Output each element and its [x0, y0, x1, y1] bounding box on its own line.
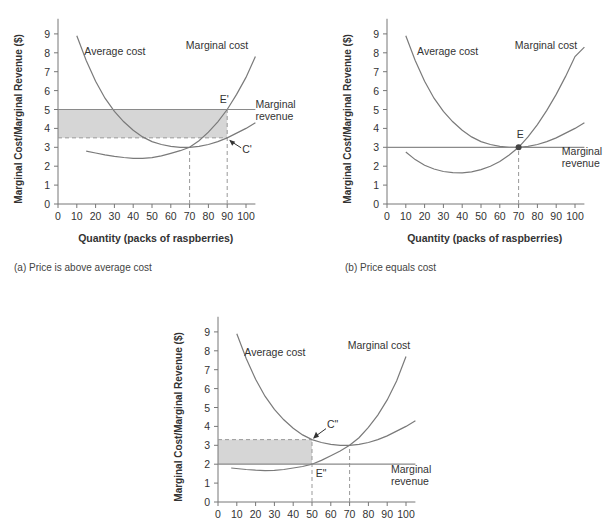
x-tick-label: 40 — [127, 210, 139, 222]
y-tick-label: 7 — [204, 364, 210, 376]
caption-a: (a) Price is above average cost — [14, 262, 152, 273]
x-tick-label: 10 — [231, 508, 243, 520]
annotation-label: Marginal cost — [515, 39, 578, 51]
x-tick-label: 20 — [419, 210, 431, 222]
x-tick-label: 30 — [438, 210, 450, 222]
caption-b: (b) Price equals cost — [345, 262, 436, 273]
x-tick-label: 0 — [55, 210, 61, 222]
y-tick-label: 4 — [204, 420, 210, 432]
x-axis-label: Quantity (packs of raspberries) — [407, 232, 562, 244]
x-tick-label: 50 — [306, 508, 318, 520]
y-tick-label: 1 — [44, 179, 50, 191]
y-tick-label: 2 — [373, 160, 379, 172]
y-tick-label: 5 — [204, 402, 210, 414]
y-tick-label: 3 — [204, 439, 210, 451]
annotation-label: E" — [316, 467, 327, 479]
x-tick-label: 90 — [550, 210, 562, 222]
y-tick-label: 3 — [373, 141, 379, 153]
x-tick-label: 60 — [165, 210, 177, 222]
x-tick-label: 100 — [566, 210, 584, 222]
y-tick-label: 4 — [373, 122, 379, 134]
y-tick-label: 5 — [373, 104, 379, 116]
x-tick-label: 20 — [90, 210, 102, 222]
y-axis-label: Marginal Cost/Marginal Revenue ($) — [13, 34, 24, 203]
x-tick-label: 0 — [384, 210, 390, 222]
annotation-label: Marginal — [391, 463, 431, 475]
shaded-region — [218, 440, 312, 465]
y-tick-label: 6 — [44, 85, 50, 97]
arrowhead-icon — [313, 432, 319, 439]
annotation-label: revenue — [255, 110, 293, 122]
y-tick-label: 5 — [44, 104, 50, 116]
y-tick-label: 9 — [44, 28, 50, 40]
x-tick-label: 80 — [532, 210, 544, 222]
y-tick-label: 0 — [373, 198, 379, 210]
x-tick-label: 70 — [344, 508, 356, 520]
annotation-label: C" — [327, 418, 339, 430]
annotation-label: E — [517, 128, 524, 140]
x-axis-label: Quantity (packs of raspberries) — [78, 232, 233, 244]
y-tick-label: 9 — [204, 326, 210, 338]
x-tick-label: 50 — [475, 210, 487, 222]
y-tick-label: 6 — [204, 383, 210, 395]
x-tick-label: 50 — [146, 210, 158, 222]
annotation-label: Marginal cost — [186, 39, 249, 51]
x-tick-label: 80 — [203, 210, 215, 222]
x-tick-label: 70 — [513, 210, 525, 222]
chart-a: 01234567890102030405060708090100Marginal… — [0, 0, 300, 250]
y-axis-label: Marginal Cost/Marginal Revenue ($) — [342, 34, 353, 203]
x-tick-label: 0 — [215, 508, 221, 520]
chart-b: 01234567890102030405060708090100Marginal… — [300, 0, 603, 250]
y-tick-label: 8 — [44, 47, 50, 59]
x-tick-label: 100 — [237, 210, 255, 222]
chart-c: 01234567890102030405060708090100Marginal… — [160, 300, 460, 529]
x-tick-label: 30 — [109, 210, 121, 222]
annotation-label: Average cost — [84, 45, 145, 57]
x-tick-label: 60 — [494, 210, 506, 222]
y-tick-label: 8 — [373, 47, 379, 59]
annotation-label: revenue — [562, 157, 600, 169]
x-tick-label: 10 — [71, 210, 83, 222]
annotation-label: E' — [220, 93, 229, 105]
x-tick-label: 40 — [287, 508, 299, 520]
x-tick-label: 100 — [397, 508, 415, 520]
annotation-label: Marginal — [255, 98, 295, 110]
x-tick-label: 90 — [381, 508, 393, 520]
x-tick-label: 70 — [184, 210, 196, 222]
shaded-region — [58, 110, 227, 138]
annotation-label: Marginal cost — [348, 339, 411, 351]
y-tick-label: 0 — [204, 496, 210, 508]
y-tick-label: 7 — [373, 66, 379, 78]
x-tick-label: 30 — [269, 508, 281, 520]
chart-panel-c: 01234567890102030405060708090100Marginal… — [160, 300, 460, 529]
y-axis-label: Marginal Cost/Marginal Revenue ($) — [173, 332, 184, 501]
annotation-label: revenue — [391, 475, 429, 487]
y-tick-label: 9 — [373, 28, 379, 40]
annotation-label: Average cost — [244, 346, 305, 358]
marginal-cost-curve — [406, 47, 585, 173]
x-tick-label: 80 — [363, 508, 375, 520]
chart-panel-a: 01234567890102030405060708090100Marginal… — [0, 0, 300, 250]
annotation-label: Marginal — [562, 145, 602, 157]
equilibrium-point-e — [516, 144, 522, 150]
y-tick-label: 8 — [204, 345, 210, 357]
y-tick-label: 1 — [373, 179, 379, 191]
annotation-label: Average cost — [417, 45, 478, 57]
chart-panel-b: 01234567890102030405060708090100Marginal… — [300, 0, 603, 250]
y-tick-label: 2 — [204, 458, 210, 470]
x-tick-label: 60 — [325, 508, 337, 520]
x-tick-label: 20 — [250, 508, 262, 520]
y-tick-label: 2 — [44, 160, 50, 172]
annotation-label: C' — [242, 143, 252, 155]
y-tick-label: 1 — [204, 477, 210, 489]
y-tick-label: 3 — [44, 141, 50, 153]
x-tick-label: 10 — [400, 210, 412, 222]
x-tick-label: 40 — [456, 210, 468, 222]
y-tick-label: 6 — [373, 85, 379, 97]
x-tick-label: 90 — [221, 210, 233, 222]
arrowhead-icon — [229, 140, 235, 146]
y-tick-label: 7 — [44, 66, 50, 78]
y-tick-label: 4 — [44, 122, 50, 134]
y-tick-label: 0 — [44, 198, 50, 210]
